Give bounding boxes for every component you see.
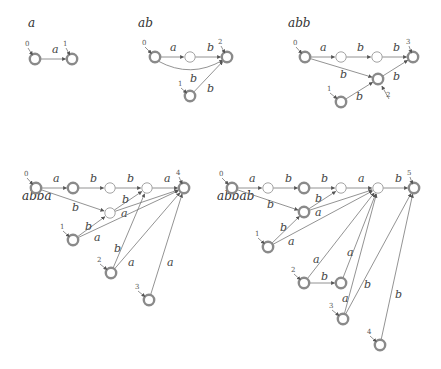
state-node <box>67 54 77 64</box>
state-number: 1 <box>327 85 331 93</box>
transition-label: b <box>280 221 287 234</box>
state-number: 4 <box>367 328 372 336</box>
state-node <box>179 183 189 193</box>
transition-label: a <box>52 43 59 56</box>
state-node <box>408 52 418 62</box>
transition-label: a <box>94 231 101 244</box>
transition-label: b <box>357 41 364 54</box>
transition-label: a <box>313 253 320 266</box>
state-node <box>144 295 154 305</box>
start-arrow <box>296 47 302 54</box>
state-node <box>142 183 152 193</box>
state-number: 5 <box>407 169 411 177</box>
automaton-abb: abbabbbbb0321 <box>288 16 418 107</box>
state-node <box>68 183 78 193</box>
state-number: 1 <box>63 40 67 48</box>
start-arrow <box>28 48 33 55</box>
state-node <box>336 278 346 288</box>
state-number: 2 <box>291 266 295 274</box>
automaton-ab: ababbb021 <box>138 16 232 101</box>
transition-label: b <box>393 70 400 83</box>
transition-edge <box>381 194 413 340</box>
start-arrow <box>63 231 70 237</box>
diagram-title: ab <box>138 16 153 30</box>
state-node <box>263 183 273 193</box>
transition-label: a <box>164 172 171 185</box>
transition-label: a <box>53 172 60 185</box>
transition-edge <box>343 194 376 278</box>
state-node <box>299 207 309 217</box>
state-number: 0 <box>293 39 297 47</box>
transition-label: a <box>358 172 365 185</box>
state-node <box>30 54 40 64</box>
state-node <box>222 52 232 62</box>
transition-label: b <box>315 192 322 205</box>
transition-label: b <box>356 90 363 103</box>
state-number: 3 <box>406 38 410 46</box>
transition-label: a <box>170 41 177 54</box>
transition-label: b <box>114 242 121 255</box>
transition-label: b <box>395 172 402 185</box>
diagrams-root: aa01ababbb021abbabbbbb0321abbaabbabbabab… <box>22 16 419 350</box>
state-number: 0 <box>142 39 146 47</box>
state-node <box>336 183 346 193</box>
state-number: 4 <box>176 169 181 177</box>
state-node <box>338 314 348 324</box>
state-node <box>336 52 346 62</box>
state-node <box>105 183 115 193</box>
state-node <box>185 52 195 62</box>
automaton-abba: abbaabbabbababaa04123 <box>22 169 189 305</box>
state-number: 3 <box>135 283 139 291</box>
automaton-a: aa01 <box>25 16 77 64</box>
start-arrow <box>258 238 265 244</box>
state-node <box>409 183 419 193</box>
start-arrow <box>294 274 301 280</box>
diagram-title: a <box>28 16 35 30</box>
state-number: 2 <box>386 91 390 99</box>
transition-label: b <box>207 41 214 54</box>
state-number: 1 <box>255 230 259 238</box>
automata-diagram-canvas: aa01ababbb021abbabbbbb0321abbaabbabbabab… <box>0 0 441 369</box>
state-number: 0 <box>25 40 29 48</box>
transition-label: a <box>342 292 349 305</box>
transition-label: b <box>321 172 328 185</box>
transition-label: b <box>207 82 214 95</box>
state-number: 0 <box>24 170 28 178</box>
state-number: 2 <box>218 38 222 46</box>
start-arrow <box>145 47 152 54</box>
transition-label: b <box>90 172 97 185</box>
transition-label: a <box>347 246 354 259</box>
start-arrow <box>138 291 145 297</box>
transition-label: b <box>85 220 92 233</box>
transition-label: b <box>72 201 79 214</box>
transition-label: a <box>128 256 135 269</box>
state-node <box>373 74 383 84</box>
transition-label: b <box>267 198 274 211</box>
start-arrow <box>332 310 339 316</box>
transition-label: b <box>395 288 402 301</box>
start-arrow <box>370 336 377 342</box>
transition-label: a <box>167 256 174 269</box>
transition-label: b <box>285 172 292 185</box>
transition-label: b <box>364 278 371 291</box>
state-node <box>106 268 116 278</box>
state-number: 1 <box>60 223 64 231</box>
state-number: 0 <box>219 170 223 178</box>
state-number: 2 <box>97 256 101 264</box>
start-arrow <box>181 88 187 93</box>
start-arrow <box>100 264 107 270</box>
transition-label: b <box>340 68 347 81</box>
transition-label: a <box>121 207 128 220</box>
state-number: 1 <box>178 80 182 88</box>
transition-label: a <box>249 172 256 185</box>
state-node <box>373 183 383 193</box>
state-node <box>336 97 346 107</box>
transition-label: b <box>321 270 328 283</box>
transition-label: b <box>127 172 134 185</box>
state-node <box>105 208 115 218</box>
start-arrow <box>222 178 229 185</box>
transition-label: b <box>122 193 129 206</box>
state-number: 3 <box>329 302 333 310</box>
transition-label: b <box>393 41 400 54</box>
transition-label: a <box>288 235 295 248</box>
